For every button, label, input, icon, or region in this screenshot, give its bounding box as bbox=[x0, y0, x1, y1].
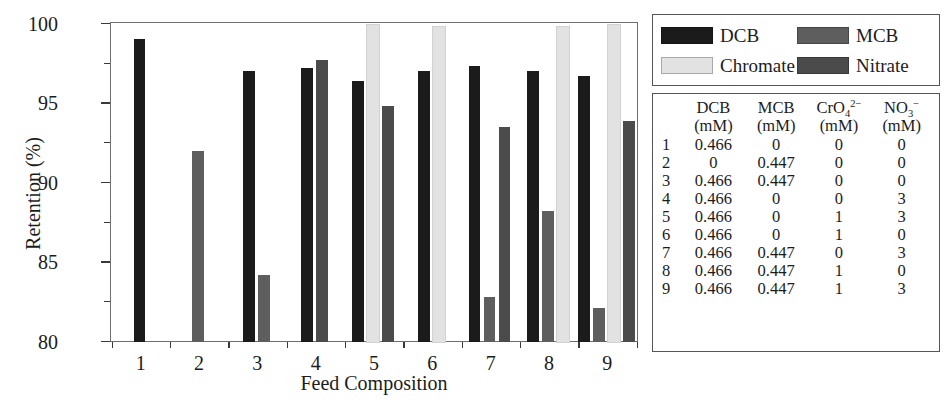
cell-dcb: 0.466 bbox=[682, 171, 745, 189]
bar-mcb-3 bbox=[258, 275, 270, 342]
cell-nitrate: 0 bbox=[870, 261, 933, 279]
bar-dcb-8 bbox=[527, 71, 539, 341]
bar-chromate-5 bbox=[367, 25, 379, 341]
table-row: 80.4660.44710 bbox=[659, 261, 933, 279]
cell-nitrate: 3 bbox=[870, 207, 933, 225]
bar-dcb-1 bbox=[134, 39, 146, 341]
legend: DCB MCB Chromate Nitrate bbox=[652, 14, 940, 86]
x-tick-label: 6 bbox=[427, 352, 437, 374]
cell-mcb: 0 bbox=[745, 225, 808, 243]
legend-label-nitrate: Nitrate bbox=[856, 56, 909, 75]
row-index: 4 bbox=[659, 189, 682, 207]
cell-dcb: 0.466 bbox=[682, 261, 745, 279]
x-tick bbox=[462, 342, 463, 348]
bar-mcb-2 bbox=[192, 151, 204, 342]
cell-dcb: 0.466 bbox=[682, 189, 745, 207]
y-tick-major bbox=[101, 261, 110, 263]
x-tick-label: 4 bbox=[311, 352, 321, 374]
cell-nitrate: 3 bbox=[870, 189, 933, 207]
table-row: 200.44700 bbox=[659, 153, 933, 171]
row-index: 7 bbox=[659, 243, 682, 261]
cell-nitrate: 0 bbox=[870, 171, 933, 189]
y-tick-label: 80 bbox=[38, 332, 58, 352]
table-header-dcb-name: DCB bbox=[696, 98, 730, 117]
x-tick bbox=[520, 342, 521, 348]
y-tick-major bbox=[101, 102, 110, 104]
cell-dcb: 0.466 bbox=[682, 207, 745, 225]
y-tick-label: 90 bbox=[38, 173, 58, 193]
cell-chromate: 1 bbox=[808, 207, 871, 225]
table-header-chromate: CrO42− (mM) bbox=[808, 98, 871, 135]
bar-chromate-9 bbox=[608, 25, 620, 341]
x-tick-label: 3 bbox=[252, 352, 262, 374]
bar-chromate-6 bbox=[433, 27, 445, 342]
x-tick bbox=[403, 342, 404, 348]
bar-nitrate-9 bbox=[623, 121, 635, 342]
table-row: 70.4660.44703 bbox=[659, 243, 933, 261]
table-body: 10.466000200.4470030.4660.4470040.466003… bbox=[659, 135, 933, 297]
cell-nitrate: 3 bbox=[870, 243, 933, 261]
y-axis: 80859095100 bbox=[0, 0, 110, 420]
legend-item-dcb: DCB bbox=[661, 26, 797, 45]
table-row: 90.4660.44713 bbox=[659, 279, 933, 297]
cell-chromate: 0 bbox=[808, 153, 871, 171]
cell-dcb: 0.466 bbox=[682, 279, 745, 297]
legend-label-dcb: DCB bbox=[720, 26, 759, 45]
legend-item-mcb: MCB bbox=[797, 26, 933, 45]
y-tick-label: 100 bbox=[28, 14, 58, 34]
bar-dcb-9 bbox=[578, 76, 590, 342]
row-index: 6 bbox=[659, 225, 682, 243]
cell-mcb: 0 bbox=[745, 135, 808, 153]
table-header-mcb-unit: (mM) bbox=[757, 116, 796, 135]
table-row: 30.4660.44700 bbox=[659, 171, 933, 189]
bar-mcb-9 bbox=[593, 308, 605, 341]
x-axis-title: Feed Composition bbox=[110, 372, 638, 395]
row-index: 8 bbox=[659, 261, 682, 279]
cell-chromate: 1 bbox=[808, 279, 871, 297]
cell-mcb: 0.447 bbox=[745, 171, 808, 189]
nitrate-charge: − bbox=[913, 97, 919, 108]
cell-chromate: 0 bbox=[808, 171, 871, 189]
table-row: 60.466010 bbox=[659, 225, 933, 243]
legend-label-mcb: MCB bbox=[856, 26, 898, 45]
x-tick bbox=[345, 342, 346, 348]
cell-mcb: 0.447 bbox=[745, 153, 808, 171]
cell-chromate: 1 bbox=[808, 225, 871, 243]
y-tick-label: 85 bbox=[38, 252, 58, 272]
cell-nitrate: 0 bbox=[870, 135, 933, 153]
cell-nitrate: 0 bbox=[870, 225, 933, 243]
bars-layer bbox=[112, 24, 637, 342]
legend-swatch-chromate bbox=[661, 57, 713, 74]
cell-mcb: 0.447 bbox=[745, 261, 808, 279]
bar-mcb-8 bbox=[542, 211, 554, 341]
table-header-dcb-unit: (mM) bbox=[694, 116, 733, 135]
bar-dcb-3 bbox=[243, 71, 255, 341]
row-index: 9 bbox=[659, 279, 682, 297]
bar-dcb-4 bbox=[301, 68, 313, 341]
table-header-row: DCB (mM) MCB (mM) CrO42− (mM) NO3− (mM) bbox=[659, 98, 933, 135]
table-row: 40.466003 bbox=[659, 189, 933, 207]
cell-mcb: 0 bbox=[745, 189, 808, 207]
x-tick-label: 1 bbox=[136, 352, 146, 374]
table-header-mcb-name: MCB bbox=[758, 98, 795, 117]
y-tick-label: 95 bbox=[38, 93, 58, 113]
legend-label-chromate: Chromate bbox=[720, 56, 795, 75]
x-tick-label: 9 bbox=[602, 352, 612, 374]
x-tick bbox=[112, 342, 113, 348]
legend-row: Chromate Nitrate bbox=[661, 50, 933, 80]
x-tick-label: 8 bbox=[544, 352, 554, 374]
y-tick-major bbox=[101, 341, 110, 343]
table-row: 10.466000 bbox=[659, 135, 933, 153]
bar-nitrate-5 bbox=[382, 106, 394, 341]
table-header-index bbox=[659, 98, 682, 135]
x-tick bbox=[578, 342, 579, 348]
cell-chromate: 0 bbox=[808, 243, 871, 261]
legend-row: DCB MCB bbox=[661, 20, 933, 50]
bar-nitrate-4 bbox=[316, 60, 328, 341]
x-tick-label: 5 bbox=[369, 352, 379, 374]
row-index: 2 bbox=[659, 153, 682, 171]
row-index: 3 bbox=[659, 171, 682, 189]
cell-mcb: 0.447 bbox=[745, 243, 808, 261]
row-index: 1 bbox=[659, 135, 682, 153]
bar-chromate-8 bbox=[557, 27, 569, 342]
